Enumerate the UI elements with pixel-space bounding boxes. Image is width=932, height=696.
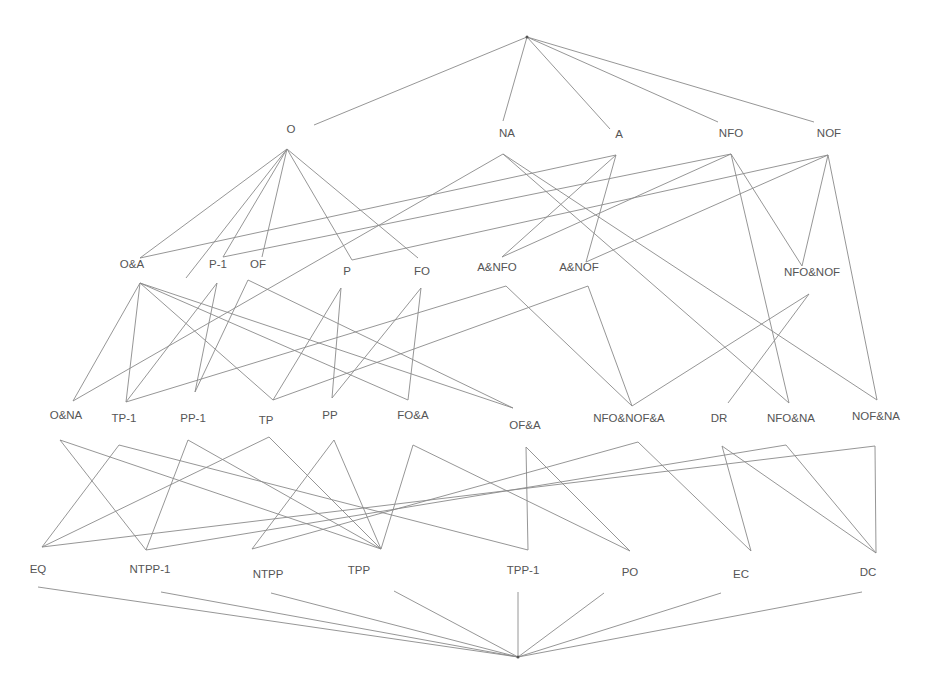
node-anfo: A&NFO: [477, 262, 517, 274]
edge-tp-eq: [42, 437, 269, 547]
edge-top: [527, 37, 814, 122]
edge-eq-bot: [38, 587, 518, 657]
node-of: OF: [250, 259, 266, 271]
edge-a-anof: [586, 155, 616, 262]
node-ntpp1: NTPP-1: [130, 564, 171, 576]
edge-po-bot: [518, 593, 604, 657]
edge-tp1-eq: [42, 445, 119, 547]
edge-of-ofa: [248, 280, 513, 408]
bottom-vertex: [517, 656, 520, 659]
node-foa: FO&A: [397, 410, 428, 422]
node-eq: EQ: [30, 564, 47, 576]
node-anof: A&NOF: [559, 262, 599, 274]
edge-ntpp1-bot: [161, 592, 518, 657]
edge-a-anfo: [502, 155, 616, 257]
edge-fo-foa: [408, 288, 421, 400]
edge-ona-tpp: [60, 440, 381, 549]
edge-foa-tpp: [381, 445, 413, 549]
edge-oa-foa: [140, 283, 408, 400]
node-po: PO: [622, 567, 639, 579]
node-ofa: OF&A: [509, 420, 540, 432]
edge-tpp-bot: [394, 591, 518, 657]
edge-ofa-po: [526, 447, 630, 551]
edge-top: [503, 37, 527, 121]
edge-nof-p: [352, 155, 828, 260]
node-dr: DR: [711, 413, 728, 425]
node-ona: O&NA: [50, 410, 83, 422]
edge-nfona-dc: [786, 445, 876, 553]
node-ec: EC: [733, 569, 749, 581]
edge-pp-tpp: [334, 440, 381, 549]
edge-anof-nfonofa: [588, 286, 632, 406]
node-p: P: [343, 266, 351, 278]
edge-nofna-dc: [875, 446, 876, 553]
edge-fo-pp: [332, 288, 421, 398]
edge-ec-bot: [518, 593, 721, 657]
edge-top: [527, 37, 718, 122]
edge-top: [527, 37, 610, 129]
node-tp: TP: [259, 415, 274, 427]
top-vertex: [526, 36, 529, 39]
edge-ofa-tpp1: [526, 447, 528, 550]
node-na: NA: [499, 128, 515, 140]
edge-oa-tp1: [126, 283, 140, 402]
edge-layer: [0, 0, 932, 696]
node-oa: O&A: [120, 259, 144, 271]
node-nfonofa: NFO&NOF&A: [593, 413, 665, 425]
edge-p1-tp1: [126, 283, 217, 402]
edge-nfonof-nfonofa: [632, 294, 809, 406]
node-pp1: PP-1: [180, 413, 206, 425]
edge-anfo-nfonofa: [506, 286, 632, 406]
node-a: A: [615, 129, 623, 141]
edge-top: [314, 37, 527, 125]
node-p1: P-1: [209, 259, 227, 271]
edge-nof-anof: [586, 155, 828, 262]
node-dc: DC: [860, 567, 877, 579]
edge-nfo-anfo: [502, 154, 731, 257]
edge-pp1-tpp1: [188, 440, 381, 549]
node-tp1: TP-1: [112, 413, 137, 425]
edge-dc-bot: [518, 592, 862, 657]
node-nfona: NFO&NA: [767, 413, 815, 425]
node-nfonof: NFO&NOF: [784, 267, 840, 279]
edge-oa-tp: [140, 283, 273, 400]
node-pp: PP: [322, 410, 337, 422]
edge-o-fo: [287, 149, 418, 258]
edge-p-tp: [273, 288, 341, 400]
node-tpp1: TPP-1: [507, 565, 540, 577]
edge-nfonofa-ec: [638, 442, 751, 551]
node-nof: NOF: [817, 128, 841, 140]
edge-o-p1: [223, 149, 287, 257]
node-o: O: [287, 124, 296, 136]
edge-pp-ntpp: [252, 440, 334, 549]
edge-ona-ntpp1: [60, 440, 146, 550]
edge-of-pp1: [195, 280, 248, 392]
edge-p-pp: [332, 288, 341, 398]
edge-na-ona: [73, 154, 503, 401]
node-fo: FO: [414, 266, 430, 278]
node-ntpp: NTPP: [253, 569, 284, 581]
edge-nfo-nfona: [731, 154, 789, 403]
edge-nfonofa-ntpp: [252, 442, 638, 549]
node-nofna: NOF&NA: [852, 411, 900, 423]
edge-tp-tpp: [269, 437, 381, 549]
node-tpp: TPP: [348, 565, 370, 577]
edge-o-p: [287, 149, 352, 260]
edge-ntpp-bot: [271, 593, 518, 657]
edge-oa-ona: [73, 283, 140, 401]
lattice-diagram: ONAANFONOFO&AP-1OFPFOA&NFOA&NOFNFO&NOFO&…: [0, 0, 932, 696]
node-nfo: NFO: [719, 128, 743, 140]
edge-a-oa: [140, 155, 616, 258]
edge-nof-nfonof: [802, 155, 828, 266]
